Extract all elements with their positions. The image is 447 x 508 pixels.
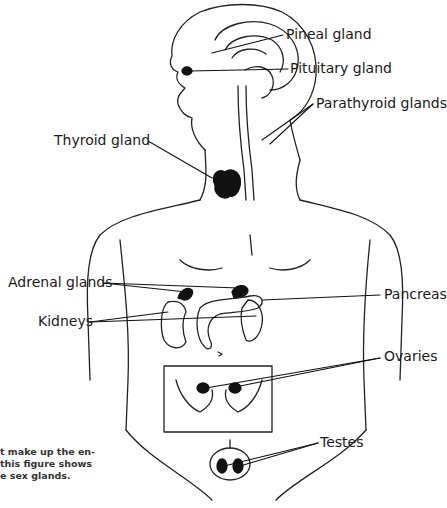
label-thyroid-gland: Thyroid gland — [54, 132, 150, 148]
label-adrenal-glands: Adrenal glands — [8, 274, 112, 290]
label-pituitary-gland: Pituitary gland — [290, 60, 392, 76]
ovaries-inset-box — [164, 366, 272, 432]
label-pancreas: Pancreas — [384, 286, 447, 302]
label-pineal-gland: Pineal gland — [286, 26, 372, 42]
adrenal-gland-left — [178, 288, 193, 300]
label-testes: Testes — [320, 434, 363, 450]
caption-line: this figure shows — [0, 458, 95, 470]
caption-line: e sex glands. — [0, 470, 95, 482]
figure-caption: t make up the en- this figure shows e se… — [0, 446, 95, 482]
label-ovaries: Ovaries — [384, 348, 437, 364]
label-kidneys: Kidneys — [38, 313, 93, 329]
ovary-right — [229, 383, 241, 393]
kidney-left — [161, 301, 186, 347]
label-parathyroid-glands: Parathyroid glands — [316, 95, 447, 111]
thyroid-gland-shape — [213, 170, 240, 198]
caption-line: t make up the en- — [0, 446, 95, 458]
